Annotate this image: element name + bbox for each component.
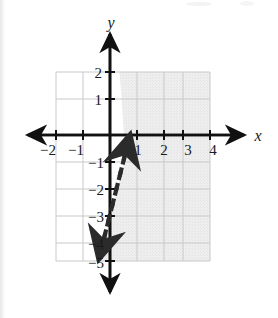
y-tick-label: −2 <box>88 182 104 198</box>
scan-edge-artifact <box>0 0 5 318</box>
coordinate-plane: −2 −1 1 2 3 4 2 1 −1 −2 −3 −4 −5 x y <box>0 0 278 318</box>
graph-figure: −2 −1 1 2 3 4 2 1 −1 −2 −3 −4 −5 x y <box>0 0 278 318</box>
x-tick-label: 1 <box>134 142 142 158</box>
y-tick-label: −5 <box>88 255 104 271</box>
y-tick-label: 2 <box>95 65 103 81</box>
scan-smudge-artifact <box>186 2 212 6</box>
scan-smudge-artifact <box>240 1 254 6</box>
y-tick-label: −1 <box>88 155 104 171</box>
y-tick-label: −4 <box>88 236 104 252</box>
x-axis-label: x <box>253 127 261 144</box>
x-tick-label: −1 <box>68 142 84 158</box>
y-tick-label: 1 <box>95 92 103 108</box>
shaded-solution-region <box>99 72 210 261</box>
x-tick-label: 3 <box>184 142 192 158</box>
x-tick-label: 4 <box>209 142 217 158</box>
y-axis-label: y <box>105 14 115 32</box>
y-tick-label: −3 <box>88 209 104 225</box>
x-tick-label: −2 <box>40 142 56 158</box>
x-tick-label: 2 <box>160 142 168 158</box>
